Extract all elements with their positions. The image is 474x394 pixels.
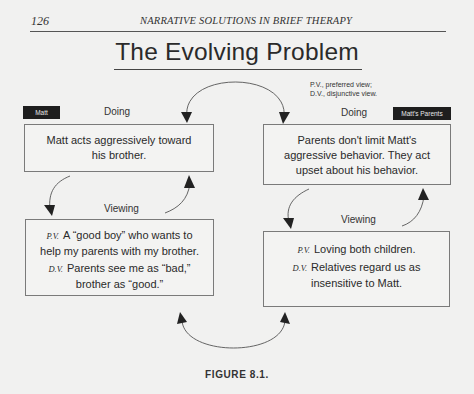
figure-caption: FIGURE 8.1. [0, 369, 474, 380]
right-down-curve [288, 189, 309, 222]
right-up-curve [402, 196, 424, 226]
cycle-arrows [0, 0, 474, 394]
bottom-arc [182, 318, 285, 348]
left-down-curve [50, 176, 70, 210]
top-arc [187, 82, 285, 118]
